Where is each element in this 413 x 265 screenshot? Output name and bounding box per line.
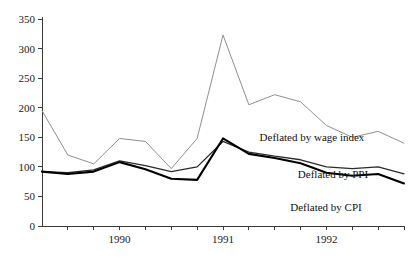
x-axis-tick-group: 199019911992 [68,226,404,245]
series-group [42,35,404,183]
y-tick-label-50: 50 [24,190,36,202]
y-tick-label-350: 350 [19,13,36,25]
y-tick-label-300: 300 [19,43,36,55]
y-tick-label-250: 250 [19,72,36,84]
series-line-wage-index [42,35,404,169]
y-tick-label-200: 200 [19,102,36,114]
y-tick-label-150: 150 [19,131,36,143]
y-tick-label-100: 100 [19,161,36,173]
x-tick-label-1992: 1992 [315,233,337,245]
y-tick-label-0: 0 [30,220,36,232]
wage-index-label: Deflated by wage index [260,131,365,143]
series-label-group: Deflated by wage indexDeflated by PPIDef… [260,131,369,213]
cpi-label: Deflated by CPI [290,201,362,213]
line-chart: 050100150200250300350 199019911992 Defla… [0,0,413,265]
x-tick-label-1990: 1990 [109,233,132,245]
y-axis-tick-group: 050100150200250300350 [19,13,43,232]
x-tick-label-1991: 1991 [212,233,234,245]
chart-container: 050100150200250300350 199019911992 Defla… [0,0,413,265]
ppi-label: Deflated by PPI [298,168,369,180]
